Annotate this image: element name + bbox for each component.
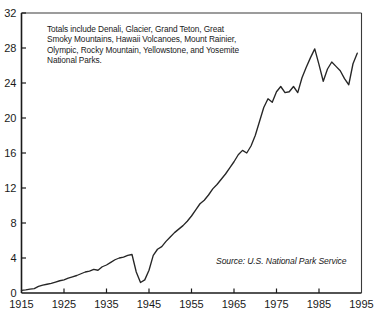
x-axis-tick-label: 1975: [264, 298, 288, 310]
y-axis-tick-label: 24: [4, 77, 16, 89]
y-axis-tick-label: 4: [10, 252, 16, 264]
y-axis-tick-label: 8: [10, 217, 16, 229]
x-axis-tick-label: 1925: [52, 298, 76, 310]
data-series: [22, 49, 358, 291]
chart-source-note: Source: U.S. National Park Service: [216, 256, 366, 266]
series-line: [22, 49, 358, 291]
x-axis-tick-label: 1935: [94, 298, 118, 310]
chart-container: 0481216202428321915192519351945195519651…: [0, 0, 374, 321]
y-axis-tick-label: 12: [4, 182, 16, 194]
x-axis-tick-label: 1955: [179, 298, 203, 310]
x-axis-tick-label: 1995: [349, 298, 373, 310]
chart-annotation-note: Totals include Denali, Glacier, Grand Te…: [47, 24, 247, 65]
x-axis-tick-label: 1945: [137, 298, 161, 310]
y-axis-tick-label: 20: [4, 112, 16, 124]
y-axis-tick-label: 32: [4, 7, 16, 19]
x-axis-tick-label: 1965: [222, 298, 246, 310]
x-axis-tick-label: 1915: [9, 298, 33, 310]
y-axis-tick-label: 16: [4, 147, 16, 159]
x-axis-tick-label: 1985: [307, 298, 331, 310]
y-axis-tick-label: 28: [4, 42, 16, 54]
